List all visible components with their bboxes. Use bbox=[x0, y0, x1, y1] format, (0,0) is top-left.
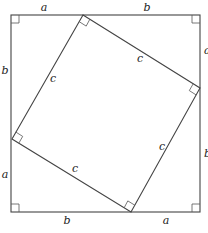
pythagorean-diagram: a b a b b a b a c c c c bbox=[0, 0, 208, 233]
label-inner-c-upper-left: c bbox=[50, 72, 56, 85]
label-top-b: b bbox=[143, 1, 150, 14]
label-bottom-a: a bbox=[163, 214, 170, 227]
label-inner-c-lower-left: c bbox=[72, 162, 78, 175]
right-angle-marker-bottom-right bbox=[192, 204, 200, 212]
label-left-b: b bbox=[1, 64, 8, 77]
right-angle-marker-top-right bbox=[192, 15, 200, 23]
right-angle-marker-top-left bbox=[11, 15, 19, 23]
right-angle-marker-inner-bottom bbox=[124, 201, 135, 208]
label-top-a: a bbox=[41, 1, 48, 14]
label-right-b: b bbox=[204, 147, 208, 160]
label-bottom-b: b bbox=[63, 214, 70, 227]
label-inner-c-upper-right: c bbox=[137, 52, 143, 65]
label-inner-c-lower-right: c bbox=[159, 140, 165, 153]
right-angle-marker-inner-top bbox=[79, 19, 89, 26]
right-angle-marker-bottom-left bbox=[11, 204, 19, 212]
label-left-a: a bbox=[2, 168, 9, 181]
inner-square bbox=[12, 15, 200, 212]
label-right-a: a bbox=[204, 44, 208, 57]
outer-square bbox=[11, 15, 200, 212]
